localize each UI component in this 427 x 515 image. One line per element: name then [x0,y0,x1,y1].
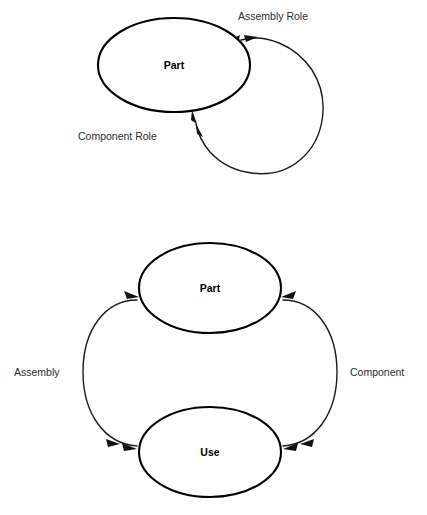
top-diagram-group: Part Assembly Role Component Role [78,10,323,174]
diagram-root: Part Assembly Role Component Role Part [0,0,427,515]
edge-label-assembly-role: Assembly Role [238,10,308,22]
arrowhead-component-into-part [281,291,296,299]
edge-label-component: Component [350,366,404,378]
edge-label-assembly: Assembly [14,366,60,378]
node-part-bottom-label: Part [200,282,221,294]
component-edge-path [283,300,337,446]
arrowhead-assembly-into-use-inner [122,443,137,451]
node-part-top-label: Part [164,59,185,71]
node-use-label: Use [200,446,219,458]
diagram-canvas: Part Assembly Role Component Role Part [0,0,427,515]
arrowhead-component-role-inner [191,110,197,124]
arrowhead-component-into-use-inner [283,443,298,451]
edge-label-component-role: Component Role [78,130,157,142]
arrowhead-assembly-into-part [124,291,139,299]
arrowhead-assembly-into-use-outer [106,439,120,447]
assembly-edge-path [83,300,137,446]
arrowhead-component-into-use-outer [300,439,314,447]
bottom-diagram-group: Part Use Assembly Component [14,243,404,497]
